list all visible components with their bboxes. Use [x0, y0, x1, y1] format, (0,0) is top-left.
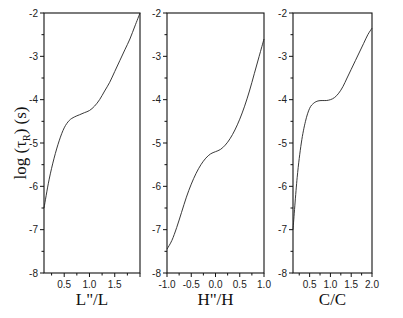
y-tick-label: -3: [29, 51, 38, 62]
x-tick-label: 1.0: [83, 279, 97, 290]
y-tick-label: -2: [278, 8, 287, 19]
x-axis-title: C/C: [319, 290, 346, 309]
x-tick-label: 0.0: [209, 279, 223, 290]
figure: log (τR) (s) -8-7-6-5-4-3-20.51.01.5L"/L…: [0, 0, 403, 318]
x-axis: 0.51.01.5: [52, 273, 140, 290]
x-tick-label: 1.5: [108, 279, 122, 290]
y-tick-label: -5: [29, 138, 38, 149]
y-axis: -8-7-6-5-4-3-2: [152, 8, 167, 279]
y-tick-label: -2: [152, 8, 161, 19]
x-tick-label: 1.5: [344, 279, 358, 290]
plot-frame: [293, 13, 372, 273]
y-tick-label: -3: [152, 51, 161, 62]
x-axis: 0.51.01.52.0: [299, 273, 379, 290]
chart-panel-3: -8-7-6-5-4-3-20.51.01.52.0C/C: [278, 8, 379, 310]
y-tick-label: -8: [278, 268, 287, 279]
x-axis: -1.0-0.50.00.51.0: [158, 273, 271, 290]
y-tick-label: -6: [152, 181, 161, 192]
y-tick-label: -4: [278, 94, 287, 105]
y-tick-label: -8: [29, 268, 38, 279]
data-curve: [167, 39, 264, 249]
y-tick-label: -5: [152, 138, 161, 149]
x-tick-label: -0.5: [183, 279, 201, 290]
y-tick-label: -7: [152, 224, 161, 235]
x-tick-label: 2.0: [365, 279, 379, 290]
y-tick-label: -7: [29, 224, 38, 235]
y-tick-label: -8: [152, 268, 161, 279]
x-tick-label: 0.5: [233, 279, 247, 290]
x-tick-label: 1.0: [257, 279, 271, 290]
data-curve: [44, 13, 140, 208]
plot-frame: [167, 13, 264, 273]
y-tick-label: -2: [29, 8, 38, 19]
chart-panel-2: -8-7-6-5-4-3-2-1.0-0.50.00.51.0H"/H: [152, 8, 271, 310]
data-curve: [293, 28, 372, 230]
chart-panel-1: -8-7-6-5-4-3-20.51.01.5L"/L: [29, 8, 140, 310]
y-tick-label: -6: [29, 181, 38, 192]
x-axis-title: H"/H: [197, 290, 233, 309]
y-axis: -8-7-6-5-4-3-2: [29, 8, 44, 279]
y-tick-label: -4: [29, 94, 38, 105]
x-tick-label: 0.5: [57, 279, 71, 290]
x-tick-label: 1.0: [323, 279, 337, 290]
y-tick-label: -6: [278, 181, 287, 192]
y-tick-label: -4: [152, 94, 161, 105]
y-axis: -8-7-6-5-4-3-2: [278, 8, 293, 279]
x-tick-label: 0.5: [303, 279, 317, 290]
y-tick-label: -3: [278, 51, 287, 62]
x-axis-title: L"/L: [76, 290, 108, 309]
y-tick-label: -5: [278, 138, 287, 149]
x-tick-label: -1.0: [158, 279, 176, 290]
y-tick-label: -7: [278, 224, 287, 235]
